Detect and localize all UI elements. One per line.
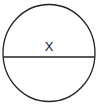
circle-label: X [45, 39, 54, 54]
circle-diagram: X [0, 0, 97, 104]
